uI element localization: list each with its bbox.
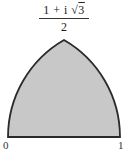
radicand: 3 <box>78 3 85 17</box>
left-label: 0 <box>3 139 9 151</box>
apex-label: 1 + i √3 2 <box>37 4 91 33</box>
apex-denominator: 2 <box>37 19 91 33</box>
curved-triangle-region <box>8 40 120 137</box>
apex-numerator: 1 + i √3 <box>37 4 91 18</box>
right-label: 1 <box>118 139 124 151</box>
numerator-prefix: 1 + i <box>43 3 71 17</box>
